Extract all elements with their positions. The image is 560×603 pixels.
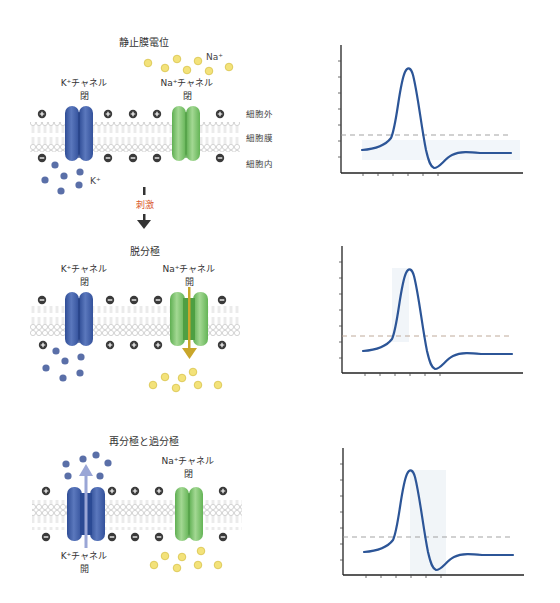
k-channel-label: K⁺チャネル 閉: [61, 263, 108, 289]
k-channel-closed: [65, 292, 93, 346]
na-channel-label: Na⁺チャネル 閉: [162, 455, 215, 481]
side-label-inside: 細胞内: [246, 157, 273, 169]
na-channel-name: Na⁺チャネル: [162, 455, 215, 468]
na-channel-state: 開: [163, 276, 216, 289]
na-ions-inside: [150, 547, 222, 572]
panel-title-resting: 静止膜電位: [119, 34, 169, 49]
k-channel-name: K⁺チャネル: [61, 77, 108, 90]
na-channel-name: Na⁺チャネル: [161, 77, 214, 90]
panel-title-depolarization: 脱分極: [130, 243, 160, 258]
na-ion-label: Na⁺: [206, 52, 223, 62]
k-channel-state: 閉: [61, 276, 108, 289]
na-channel-closed: [175, 487, 203, 541]
k-channel-state: 開: [61, 563, 108, 576]
side-label-membrane: 細胞膜: [246, 131, 273, 143]
k-channel-state: 閉: [61, 90, 108, 103]
na-channel-state: 閉: [162, 468, 215, 481]
na-ions-inside: [149, 368, 222, 392]
highlight-repolarization: [410, 470, 446, 575]
panel-title-repolarization: 再分極と過分極: [109, 433, 179, 448]
action-potential-chart-2: [339, 246, 523, 376]
k-ion-label: K⁺: [90, 176, 101, 186]
stimulus-label: 刺激: [136, 198, 154, 211]
action-potential-chart-1: [338, 45, 523, 176]
membrane-bilayer: [30, 306, 240, 336]
na-channel-label: Na⁺チャネル 閉: [161, 77, 214, 103]
na-channel-state: 閉: [161, 90, 214, 103]
k-channel-label: K⁺チャネル 閉: [61, 77, 108, 103]
k-ions-inside: [42, 347, 84, 381]
membrane-bilayer: [32, 500, 242, 530]
side-label-outside: 細胞外: [246, 107, 273, 119]
k-channel-label: K⁺チャネル 開: [61, 550, 108, 576]
k-channel-name: K⁺チャネル: [61, 550, 108, 563]
na-channel-label: Na⁺チャネル 開: [163, 263, 216, 289]
membrane-bilayer: [30, 122, 240, 152]
k-channel-closed: [65, 106, 93, 161]
na-channel-closed: [172, 106, 200, 161]
na-channel-name: Na⁺チャネル: [163, 263, 216, 276]
panel-depolarization: [30, 287, 240, 392]
k-ions-inside: [41, 161, 83, 194]
action-potential-chart-3: [340, 448, 524, 578]
k-channel-name: K⁺チャネル: [61, 263, 108, 276]
